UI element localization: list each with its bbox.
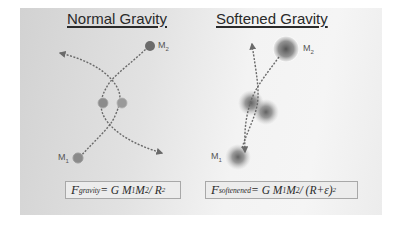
mass-m2-softened bbox=[273, 36, 299, 62]
mass-mid-right-softened bbox=[253, 99, 279, 125]
mass-m1-softened bbox=[225, 144, 251, 170]
softened-gravity-formula: Fsoftenened = G M1 M2 / (R+ε)2 bbox=[205, 181, 358, 199]
normal-gravity-formula: Fgravity = G M1 M2 / R2 bbox=[65, 181, 181, 199]
mass-m1-normal bbox=[73, 153, 83, 163]
normal-gravity-title: Normal Gravity bbox=[67, 10, 167, 27]
m1-label-normal: M1 bbox=[58, 152, 69, 164]
mass-m2-normal bbox=[145, 41, 155, 51]
m1-label-softened: M1 bbox=[211, 151, 222, 163]
m2-label-normal: M2 bbox=[158, 40, 169, 52]
softened-gravity-title: Softened Gravity bbox=[216, 10, 328, 27]
normal-gravity-paths bbox=[60, 47, 162, 157]
mass-mid-left-normal bbox=[98, 98, 108, 108]
m2-label-softened: M2 bbox=[303, 43, 314, 55]
mass-mid-right-normal bbox=[117, 98, 127, 108]
